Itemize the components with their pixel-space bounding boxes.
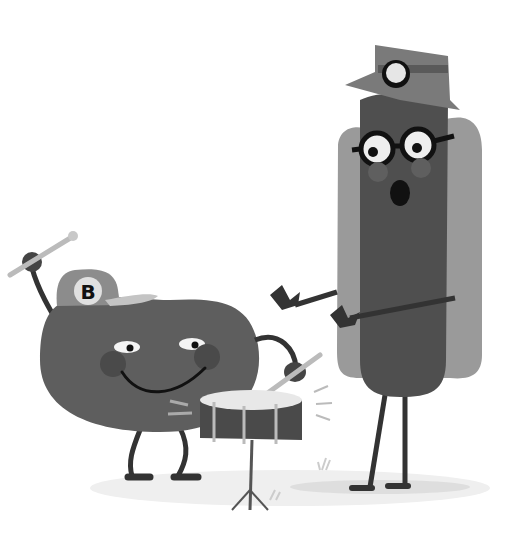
- hotdog-mouth: [390, 180, 410, 206]
- bean-character: B: [10, 231, 320, 477]
- illustration-canvas: B: [0, 0, 532, 554]
- cap-letter: B: [80, 280, 95, 304]
- cartoon-illustration: B: [0, 0, 532, 554]
